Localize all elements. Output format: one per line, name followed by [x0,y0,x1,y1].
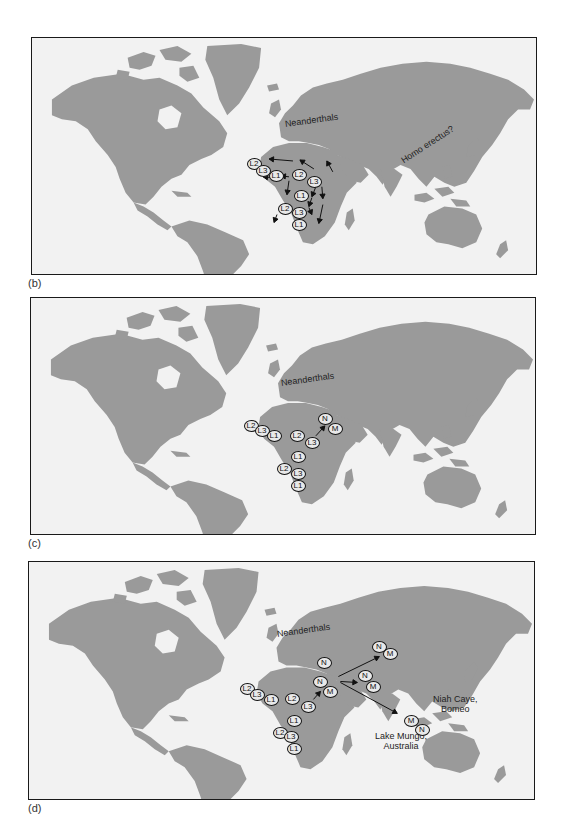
panel-label-c: (c) [28,537,41,549]
world-map [31,298,535,534]
panel-label-d: (d) [28,802,41,814]
panel-label-b: (b) [28,277,41,289]
world-map [29,562,534,799]
map-panel-b: Neanderthals Homo erectus? L2L3L1L2L3L1L… [31,37,537,275]
map-panel-d: Neanderthals Niah Caye, Bomeo Lake Mungo… [28,561,535,800]
arrowhead-icon [273,217,278,222]
world-map [32,38,536,274]
map-panel-c: Neanderthals L2L3L1L2L3L1L2L3L1NM [30,297,536,535]
